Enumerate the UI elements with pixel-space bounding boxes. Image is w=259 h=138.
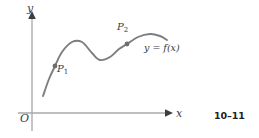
- point-label-p2-subscript: 2: [124, 26, 128, 34]
- point-label-p1-subscript: 1: [64, 68, 68, 76]
- y-axis-label: y: [27, 3, 33, 14]
- point-label-p2: P2: [117, 22, 128, 34]
- point-label-p1: P1: [57, 64, 68, 76]
- page-reference-label: 10–11: [214, 110, 245, 121]
- origin-label: O: [20, 113, 29, 124]
- point-marker-p2: [125, 42, 130, 47]
- x-axis-label: x: [176, 108, 182, 119]
- point-label-p2-letter: P: [117, 21, 124, 32]
- x-axis-arrowhead: [165, 109, 173, 117]
- point-label-p1-letter: P: [57, 63, 64, 74]
- math-graph-figure: y x O P1 P2 y = f(x) 10–11: [0, 0, 259, 138]
- function-equation-label: y = f(x): [144, 43, 180, 53]
